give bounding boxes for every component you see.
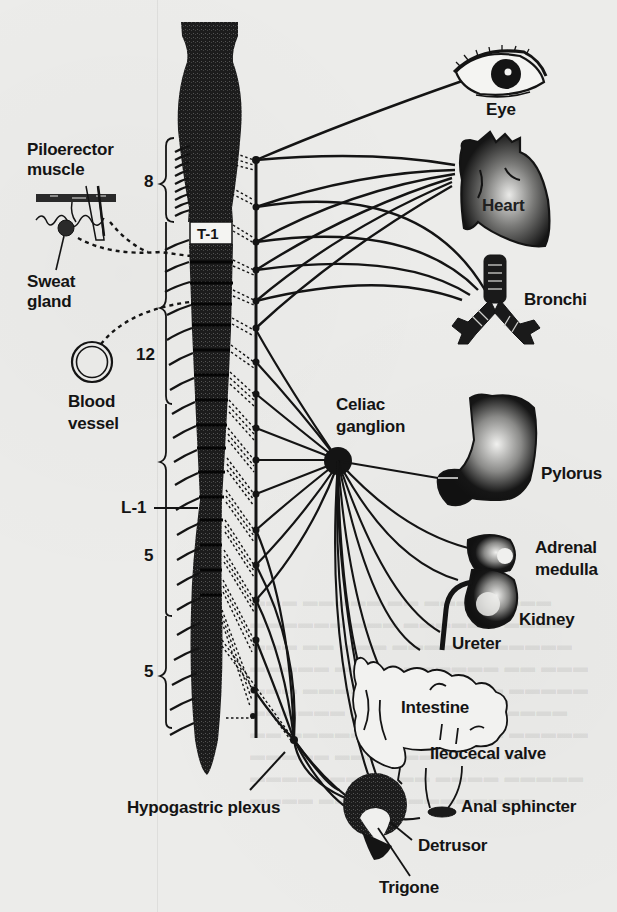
label-celiac-line1: Celiac <box>336 395 385 415</box>
bladder-icon <box>343 773 412 876</box>
heart-icon <box>460 132 549 246</box>
level-label-thoracic-8: 8 <box>144 172 153 192</box>
t1-segment-label: T-1 <box>197 225 219 242</box>
level-label-thoracic-12: 12 <box>136 345 155 365</box>
intestine-icon <box>353 658 507 784</box>
diagram-artwork <box>0 0 617 912</box>
anal-sphincter-icon <box>426 766 463 817</box>
label-celiac-line2: ganglion <box>336 417 405 437</box>
segment-braces <box>160 138 174 728</box>
skin-piloerector-icon <box>36 186 116 270</box>
label-pylorus: Pylorus <box>541 464 602 484</box>
label-eye: Eye <box>486 100 516 120</box>
label-trigone: Trigone <box>379 878 439 898</box>
level-label-lumbar-5: 5 <box>144 546 153 566</box>
label-ileocecal-valve: Ileocecal valve <box>430 744 546 764</box>
label-blood-line1: Blood <box>68 392 115 412</box>
label-bronchi: Bronchi <box>524 290 587 310</box>
label-intestine: Intestine <box>401 698 469 718</box>
level-label-lumbar-1: L-1 <box>121 498 147 518</box>
skin-vessel-dashed-fibers <box>78 222 190 344</box>
label-piloerector-line2: muscle <box>27 160 84 180</box>
label-ureter: Ureter <box>452 634 501 654</box>
label-detrusor: Detrusor <box>418 836 487 856</box>
label-kidney: Kidney <box>519 610 574 630</box>
hypogastric-plexus-node <box>290 736 298 744</box>
level-label-sacral-5: 5 <box>144 662 153 682</box>
label-heart: Heart <box>482 196 524 216</box>
label-anal-sphincter: Anal sphincter <box>461 797 576 817</box>
label-sweat-line2: gland <box>27 292 71 312</box>
label-blood-line2: vessel <box>68 414 119 434</box>
label-adrenal-line1: Adrenal <box>535 538 597 558</box>
label-hypogastric-plexus: Hypogastric plexus <box>127 798 280 818</box>
eye-icon <box>454 45 546 97</box>
spinal-cord <box>178 22 242 775</box>
label-sweat-line1: Sweat <box>27 272 75 292</box>
pylorus-stomach-icon <box>438 394 537 505</box>
kidney-adrenal-icon <box>442 535 517 650</box>
label-piloerector-line1: Piloerector <box>27 140 114 160</box>
blood-vessel-icon <box>72 342 112 382</box>
thoracic-postganglionic-fibers <box>256 80 485 328</box>
label-adrenal-line2: medulla <box>535 560 598 580</box>
hypogastric-pointer-line <box>250 752 285 790</box>
